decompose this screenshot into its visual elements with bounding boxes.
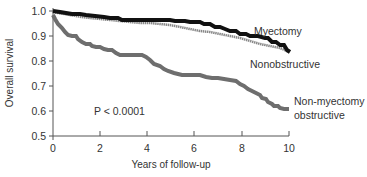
y-tick-label: 0.8 — [31, 55, 46, 67]
x-tick-label: 8 — [239, 142, 245, 154]
x-ticks: 0 2 4 6 8 10 — [50, 131, 295, 154]
y-axis-label: Overall survival — [4, 39, 15, 107]
survival-chart: 1.0 0.9 0.8 0.7 0.6 0.5 0 2 4 6 8 10 Yea… — [0, 0, 367, 177]
label-myectomy: Myectomy — [254, 25, 303, 37]
y-tick-label: 0.6 — [31, 105, 46, 117]
y-tick-label: 0.7 — [31, 80, 46, 92]
x-tick-label: 0 — [50, 142, 56, 154]
label-non-myectomy-line2: obstructive — [294, 109, 345, 121]
y-tick-label: 1.0 — [31, 5, 46, 17]
y-tick-label: 0.5 — [31, 130, 46, 142]
p-value-annotation: P < 0.0001 — [94, 105, 145, 117]
x-tick-label: 2 — [97, 142, 103, 154]
x-tick-label: 4 — [144, 142, 150, 154]
label-non-myectomy-line1: Non-myectomy — [294, 95, 365, 107]
y-tick-label: 0.9 — [31, 30, 46, 42]
x-tick-label: 6 — [191, 142, 197, 154]
x-tick-label: 10 — [283, 142, 295, 154]
y-ticks: 1.0 0.9 0.8 0.7 0.6 0.5 — [31, 5, 53, 142]
x-axis-label: Years of follow-up — [131, 159, 211, 170]
label-nonobstructive: Nonobstructive — [250, 58, 320, 70]
